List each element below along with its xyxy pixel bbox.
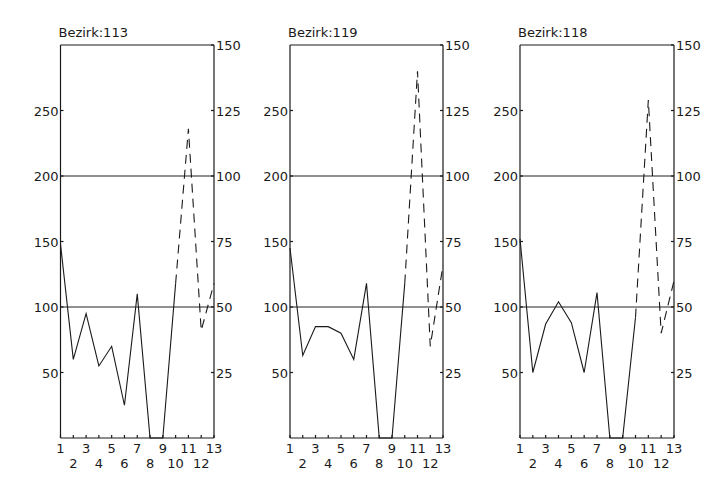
x-tick-label: 5 [337,441,345,456]
right-tick-label: 25 [216,366,233,381]
x-tick-label: 6 [120,456,128,471]
x-tick-label: 13 [206,441,223,456]
x-tick-label: 8 [146,456,154,471]
x-tick-label: 2 [69,456,77,471]
x-tick-label: 12 [422,456,439,471]
left-tick-label: 250 [493,104,518,119]
dashed-series-line [176,129,214,331]
x-tick-label: 4 [324,456,332,471]
x-tick-label: 8 [606,456,614,471]
x-tick-label: 12 [193,456,210,471]
left-tick-label: 150 [263,235,288,250]
x-tick-label: 4 [554,456,562,471]
solid-series-line [61,244,176,438]
right-tick-label: 100 [445,169,470,184]
right-tick-label: 150 [676,38,701,53]
left-tick-label: 100 [493,300,518,315]
panel-title: Bezirk:118 [518,25,587,40]
solid-series-line [290,248,405,438]
left-tick-label: 250 [34,104,59,119]
left-tick-label: 50 [42,366,59,381]
x-tick-label: 4 [95,456,103,471]
chart-panel: Bezirk:113501001502002502550751001251501… [34,25,241,471]
right-tick-label: 50 [676,300,693,315]
left-tick-label: 200 [493,169,518,184]
left-tick-label: 50 [271,366,288,381]
panel-title: Bezirk:113 [59,25,128,40]
right-tick-label: 25 [676,366,693,381]
right-tick-label: 125 [216,104,241,119]
x-tick-label: 13 [435,441,452,456]
right-tick-label: 50 [445,300,462,315]
x-tick-label: 10 [627,456,644,471]
x-tick-label: 1 [516,441,524,456]
left-tick-label: 100 [263,300,288,315]
right-tick-label: 50 [216,300,233,315]
x-tick-label: 9 [388,441,396,456]
x-tick-label: 11 [640,441,657,456]
x-tick-label: 1 [286,441,294,456]
left-tick-label: 100 [34,300,59,315]
x-tick-label: 3 [542,441,550,456]
left-tick-label: 50 [501,366,518,381]
right-tick-label: 150 [445,38,470,53]
right-tick-label: 100 [676,169,701,184]
dashed-series-line [405,71,443,346]
x-tick-label: 8 [375,456,383,471]
x-tick-label: 13 [666,441,683,456]
x-tick-label: 5 [567,441,575,456]
x-tick-label: 2 [529,456,537,471]
x-tick-label: 7 [362,441,370,456]
left-tick-label: 200 [263,169,288,184]
x-tick-label: 9 [159,441,167,456]
right-tick-label: 75 [676,235,693,250]
x-tick-label: 6 [350,456,358,471]
left-tick-label: 150 [493,235,518,250]
right-tick-label: 100 [216,169,241,184]
left-tick-label: 150 [34,235,59,250]
x-tick-label: 12 [653,456,670,471]
x-tick-label: 7 [133,441,141,456]
x-tick-label: 3 [311,441,319,456]
x-tick-label: 11 [409,441,426,456]
solid-series-line [520,239,636,438]
chart-panel: Bezirk:118501001502002502550751001251501… [493,25,701,471]
right-tick-label: 150 [216,38,241,53]
dashed-series-line [636,100,675,333]
left-tick-label: 250 [263,104,288,119]
left-tick-label: 200 [34,169,59,184]
x-tick-label: 2 [299,456,307,471]
x-tick-label: 9 [619,441,627,456]
right-tick-label: 125 [445,104,470,119]
right-tick-label: 75 [445,235,462,250]
x-tick-label: 6 [580,456,588,471]
right-tick-label: 25 [445,366,462,381]
chart-canvas: Bezirk:113501001502002502550751001251501… [0,0,724,489]
right-tick-label: 125 [676,104,701,119]
chart-panel: Bezirk:119501001502002502550751001251501… [263,25,470,471]
x-tick-label: 10 [396,456,413,471]
panel-title: Bezirk:119 [288,25,357,40]
x-tick-label: 3 [82,441,90,456]
x-tick-label: 1 [56,441,64,456]
right-tick-label: 75 [216,235,233,250]
x-tick-label: 11 [180,441,197,456]
x-tick-label: 10 [167,456,184,471]
x-tick-label: 7 [593,441,601,456]
x-tick-label: 5 [108,441,116,456]
